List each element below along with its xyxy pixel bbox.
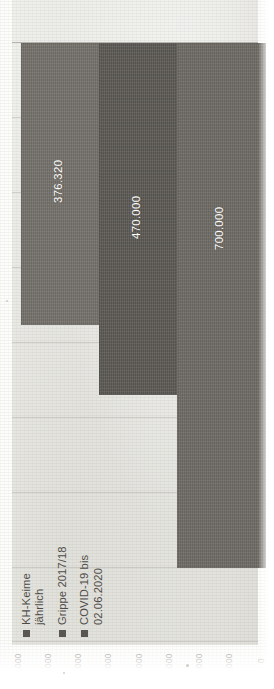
legend-item-kh-keime[interactable]: KH-Keime jährlich	[20, 546, 47, 637]
legend-label-grippe: Grippe 2017/18	[56, 546, 69, 625]
legend-swatch-icon	[23, 630, 30, 637]
scan-speck	[63, 672, 65, 674]
bar-value-kh-keime: 700.000	[213, 207, 225, 250]
bar-value-covid-19: 376.320	[52, 160, 64, 203]
chart-legend: KH-Keime jährlich Grippe 2017/18 COVID-1…	[20, 546, 105, 637]
bar-chart: 376.320 470.000 700.000	[12, 0, 258, 645]
bar-value-grippe: 470.000	[130, 196, 142, 239]
legend-item-grippe[interactable]: Grippe 2017/18	[56, 546, 69, 637]
legend-swatch-icon	[59, 630, 66, 637]
page-edge-bottom	[0, 641, 274, 689]
legend-swatch-icon	[81, 630, 88, 637]
legend-label-covid-19: COVID-19 bis 02.06.2020	[78, 555, 105, 625]
scan-speck	[186, 664, 189, 667]
bar-grippe[interactable]: 470.000	[99, 43, 177, 395]
page-edge-right	[258, 0, 274, 689]
bar-row-kh-keime: 700.000	[177, 0, 266, 645]
scan-speck	[6, 300, 8, 302]
bar-row-grippe: 470.000	[99, 0, 177, 645]
legend-label-kh-keime: KH-Keime jährlich	[20, 573, 47, 625]
bar-covid-19[interactable]: 376.320	[21, 43, 99, 325]
bar-kh-keime[interactable]: 700.000	[177, 43, 266, 568]
scanned-page: 376.320 470.000 700.000	[0, 0, 274, 689]
legend-item-covid-19[interactable]: COVID-19 bis 02.06.2020	[78, 546, 105, 637]
scan-speck	[249, 338, 251, 345]
